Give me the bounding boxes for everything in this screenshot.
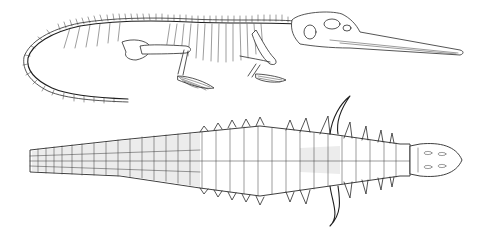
shoulder-horn-top [330,96,350,134]
hind-limb [178,50,188,75]
skull [291,12,463,55]
skeleton-lateral-view [23,12,463,103]
shoulder-horn-bottom [330,186,340,226]
ribs [64,23,263,62]
armor-dorsal-view [30,96,462,226]
illustration [0,0,485,245]
fore-limb [248,64,260,77]
